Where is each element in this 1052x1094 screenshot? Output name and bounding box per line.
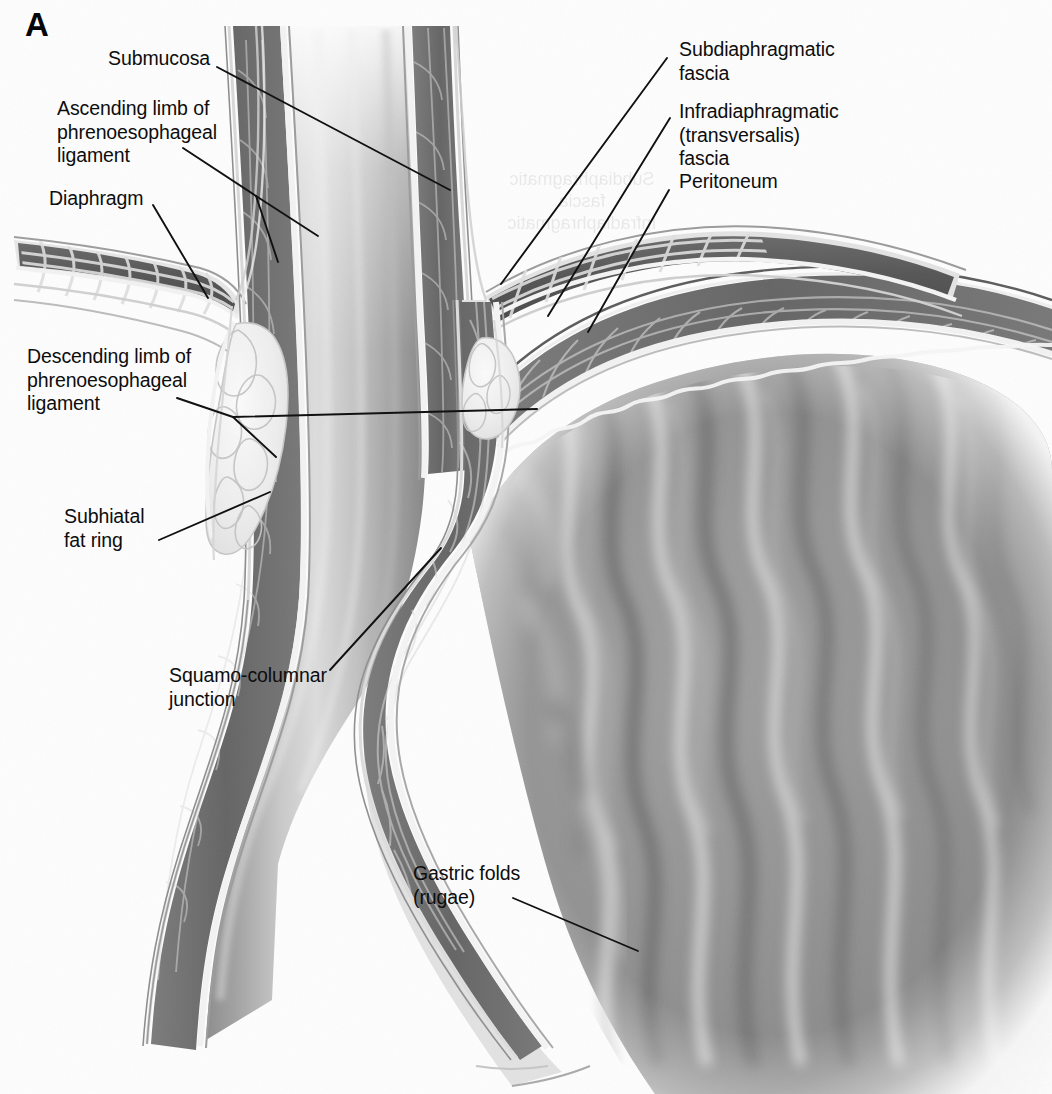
label-diaphragm: Diaphragm xyxy=(49,187,143,211)
label-infradiaphragmatic-transversalis-fascia: Infradiaphragmatic (transversalis) fasci… xyxy=(679,100,839,171)
leader-peritoneum xyxy=(588,190,669,332)
label-subdiaphragmatic-fascia: Subdiaphragmatic fascia xyxy=(679,38,835,85)
leader-subdiaphragmatic-fascia xyxy=(501,58,667,284)
panel-letter: A xyxy=(25,6,49,44)
leader-gastric-folds xyxy=(513,898,638,951)
leader-submucosa xyxy=(217,67,450,190)
leader-diaphragm xyxy=(153,205,208,298)
label-gastric-folds-rugae: Gastric folds (rugae) xyxy=(413,862,520,909)
label-descending-limb-of-phrenoesophageal-ligament: Descending limb of phrenoesophageal liga… xyxy=(27,345,191,416)
anatomical-figure: Subdiaphragmatic fascia Infradiaphragmat… xyxy=(0,0,1052,1094)
label-squamo-columnar-junction: Squamo-columnar junction xyxy=(169,664,327,711)
leader-squamo-columnar-junction xyxy=(330,548,441,670)
label-submucosa: Submucosa xyxy=(108,47,210,71)
leader-descending-limb-branch-1 xyxy=(233,409,537,417)
leader-ascending-limb-branch-2 xyxy=(256,196,278,262)
leader-infradiaphragmatic-fascia xyxy=(548,118,670,316)
leader-ascending-limb-branch-1 xyxy=(256,196,318,236)
label-subhiatal-fat-ring: Subhiatal fat ring xyxy=(64,505,144,552)
leader-subhiatal-fat-ring xyxy=(159,492,270,540)
leader-descending-limb-branch-2 xyxy=(233,417,276,457)
label-ascending-limb-of-phrenoesophageal-ligament: Ascending limb of phrenoesophageal ligam… xyxy=(57,97,217,168)
label-peritoneum: Peritoneum xyxy=(679,170,778,194)
